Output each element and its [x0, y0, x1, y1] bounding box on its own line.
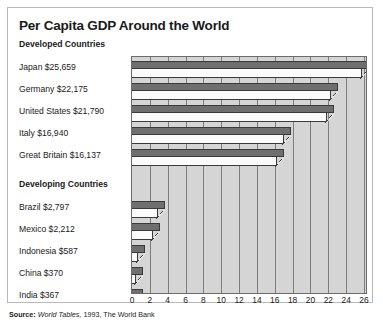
bar-end-cap-edge: [156, 208, 165, 219]
bar-top-face: [132, 61, 367, 69]
bar-front-face: [132, 69, 362, 78]
chart-figure: Per Capita GDP Around the World Develope…: [7, 7, 373, 303]
x-tick-label: 20: [306, 295, 315, 305]
bar: [132, 127, 291, 144]
category-label: China $370: [19, 268, 63, 278]
bar: [132, 105, 334, 122]
category-label: Japan $25,659: [19, 62, 76, 72]
x-tick-label: 8: [201, 295, 206, 305]
category-label: Indonesia $587: [19, 246, 78, 256]
bar-end-cap-edge: [329, 90, 338, 101]
bar: [132, 223, 160, 240]
source-note: Source: World Tables, 1993, The World Ba…: [9, 310, 155, 319]
bar-end-cap-edge: [134, 274, 143, 285]
category-label: Mexico $2,212: [19, 224, 75, 234]
bar: [132, 149, 284, 166]
bar: [132, 245, 145, 262]
category-label: Italy $16,940: [19, 128, 68, 138]
bar-top-face: [132, 289, 143, 294]
category-label: United States $21,790: [19, 106, 104, 116]
bar: [132, 61, 367, 78]
x-tick-label: 0: [130, 295, 135, 305]
bar-top-face: [132, 105, 334, 113]
page-title: Per Capita GDP Around the World: [19, 18, 229, 33]
bar-end-cap-edge: [136, 252, 145, 263]
x-tick-label: 6: [183, 295, 188, 305]
bar-end-cap-edge: [360, 68, 367, 79]
source-label: Source:: [9, 310, 36, 319]
bar-top-face: [132, 149, 284, 157]
x-tick-label: 26: [359, 295, 368, 305]
bar-end-cap-edge: [151, 230, 160, 241]
category-label: India $367: [19, 290, 59, 300]
x-tick-label: 18: [288, 295, 297, 305]
category-label: Germany $22,175: [19, 84, 88, 94]
category-label: Great Britain $16,137: [19, 150, 101, 160]
x-tick-label: 4: [165, 295, 170, 305]
x-axis-tick-labels: 02468101214161820222426: [131, 295, 367, 309]
bar: [132, 201, 165, 218]
category-label: Brazil $2,797: [19, 202, 69, 212]
x-tick-label: 14: [252, 295, 261, 305]
bar-front-face: [132, 113, 327, 122]
bar-front-face: [132, 91, 331, 100]
bar-front-face: [132, 209, 158, 218]
bar: [132, 267, 143, 284]
bar-top-face: [132, 83, 338, 91]
plot-area: [131, 56, 367, 294]
x-tick-label: 10: [217, 295, 226, 305]
bar-front-face: [132, 135, 284, 144]
bar-front-face: [132, 231, 153, 240]
x-tick-label: 12: [234, 295, 243, 305]
bar-end-cap-edge: [275, 156, 284, 167]
x-tick-label: 24: [341, 295, 350, 305]
bar: [132, 289, 143, 294]
group-heading-developing: Developing Countries: [19, 179, 108, 189]
bar-front-face: [132, 157, 277, 166]
gridline: [364, 57, 365, 293]
x-tick-label: 22: [324, 295, 333, 305]
bar-end-cap-edge: [282, 134, 291, 145]
source-title: World Tables,: [38, 310, 82, 319]
bar-end-cap-edge: [325, 112, 334, 123]
x-tick-label: 16: [270, 295, 279, 305]
group-heading-developed: Developed Countries: [19, 39, 105, 49]
x-tick-label: 2: [148, 295, 153, 305]
bar: [132, 83, 338, 100]
source-rest: 1993, The World Bank: [81, 310, 154, 319]
gridline: [346, 57, 347, 293]
bar-top-face: [132, 127, 291, 135]
